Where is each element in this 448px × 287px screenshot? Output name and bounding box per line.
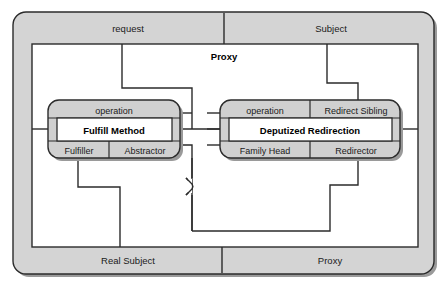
pattern-name-label: Proxy	[211, 51, 238, 62]
top-band-right-label: Subject	[315, 23, 347, 34]
bottom-band-right-label: Proxy	[318, 255, 343, 266]
role-box-left-footer-left-label: Fulfiller	[64, 146, 93, 156]
role-box-left-main-label: Fulfill Method	[83, 125, 145, 136]
diagram-canvas: request Subject Proxy Real Subject Proxy	[0, 0, 448, 287]
role-box-right-header-right-label: Redirect Sibling	[324, 106, 387, 116]
role-box-right[interactable]: operation Redirect Sibling Deputized Red…	[220, 100, 403, 161]
role-box-left-footer-right-label: Abstractor	[124, 146, 165, 156]
role-box-right-header-label: operation	[246, 106, 284, 116]
role-box-right-main-label: Deputized Redirection	[260, 125, 360, 136]
bottom-band-left-label: Real Subject	[101, 255, 155, 266]
role-box-left-header-label: operation	[95, 106, 133, 116]
role-box-right-footer-left-label: Family Head	[240, 146, 291, 156]
top-band-left-label: request	[112, 23, 144, 34]
role-box-left[interactable]: operation Fulfill Method Fulfiller Abstr…	[48, 100, 183, 161]
role-box-right-footer-right-label: Redirector	[335, 146, 377, 156]
proxy-role-diagram: request Subject Proxy Real Subject Proxy	[0, 0, 448, 287]
